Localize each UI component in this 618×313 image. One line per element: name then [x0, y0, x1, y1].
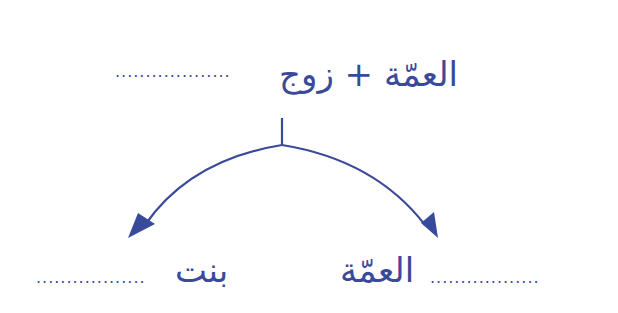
parent-blank: ................... — [115, 62, 231, 81]
child-right-blank: .................. — [430, 268, 540, 287]
child-left-label: بنت — [175, 250, 228, 290]
right-arrowhead-icon — [421, 212, 438, 238]
left-arc-line — [145, 145, 282, 225]
child-right-label: العمّة — [340, 250, 414, 290]
child-left-blank: .................. — [36, 268, 146, 287]
parent-label: العمّة + زوج — [279, 54, 458, 94]
right-arc-line — [282, 145, 425, 225]
connector-diagram — [0, 0, 618, 313]
